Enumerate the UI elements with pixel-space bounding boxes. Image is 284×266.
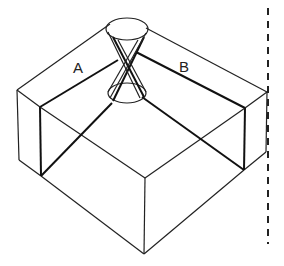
label-b: B <box>179 58 189 75</box>
box-outline <box>17 24 267 254</box>
hourglass-cones <box>106 18 148 103</box>
beam-a <box>40 60 118 176</box>
diagram-canvas: A B <box>0 0 284 266</box>
label-a: A <box>73 59 83 76</box>
beam-b <box>136 52 245 170</box>
